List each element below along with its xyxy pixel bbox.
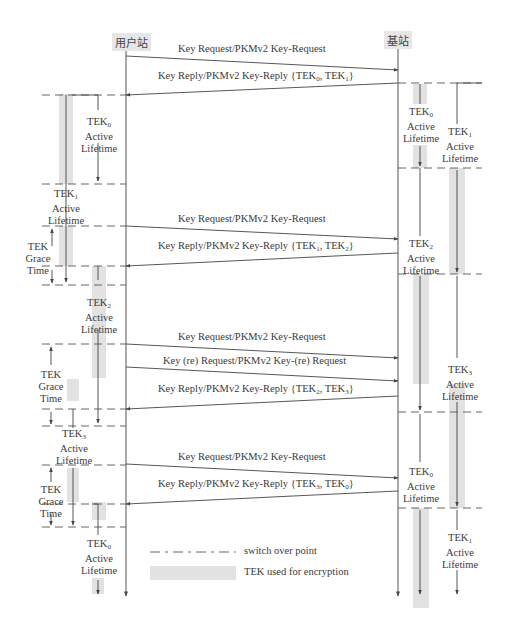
bs-tek0-active-lifetime: TEK0 Active Lifetime xyxy=(401,106,441,145)
bs-tek3-active-lifetime: TEK3 Active Lifetime xyxy=(440,364,480,403)
ss-tek0-active-lifetime-2: TEK0 Active Lifetime xyxy=(80,538,118,577)
legend-switchover-label: switch over point xyxy=(244,545,317,556)
lifelines xyxy=(126,47,398,596)
message-key-reply-4: Key Reply/PKMv2 Key-Reply {TEK3, TEK0} xyxy=(158,478,354,491)
ss-tek3-active-lifetime: TEK3 Active Lifetime xyxy=(54,428,94,467)
bs-tek0-active-lifetime-2: TEK0 Active Lifetime xyxy=(401,466,441,505)
message-key-reply-3: Key Reply/PKMv2 Key-Reply {TEK2, TEK3} xyxy=(158,383,354,396)
legend-encryption-label: TEK used for encryption xyxy=(244,566,349,577)
message-key-re-request: Key (re) Request/PKMv2 Key-(re) Request xyxy=(163,355,346,366)
tek-grace-time-1: TEK Grace Time xyxy=(24,241,52,277)
bs-tek1-active-lifetime-2: TEK1 Active Lifetime xyxy=(440,532,480,571)
message-key-request-1: Key Request/PKMv2 Key-Request xyxy=(178,43,326,54)
actor-base-station: 基站 xyxy=(384,31,412,49)
actor-subscriber-station: 用户站 xyxy=(112,33,151,51)
bs-tek2-active-lifetime: TEK2 Active Lifetime xyxy=(401,238,441,277)
message-key-request-4: Key Request/PKMv2 Key-Request xyxy=(178,451,326,462)
bs-tek1-active-lifetime: TEK1 Active Lifetime xyxy=(440,126,480,165)
ss-tek0-active-lifetime: TEK0 Active Lifetime xyxy=(80,116,118,155)
tek-grace-time-2: TEK Grace Time xyxy=(37,369,65,405)
tek-grace-time-3: TEK Grace Time xyxy=(37,484,65,520)
ss-tek2-active-lifetime: TEK2 Active Lifetime xyxy=(80,297,118,336)
message-key-reply-2: Key Reply/PKMv2 Key-Reply {TEK1, TEK2} xyxy=(158,240,354,253)
ss-tek1-active-lifetime: TEK1 Active Lifetime xyxy=(46,188,86,227)
message-key-request-2: Key Request/PKMv2 Key-Request xyxy=(178,213,326,224)
diagram-canvas xyxy=(0,0,505,624)
message-arrows xyxy=(126,56,398,504)
message-key-reply-1: Key Reply/PKMv2 Key-Reply {TEK0, TEK1} xyxy=(158,70,354,83)
message-key-request-3: Key Request/PKMv2 Key-Request xyxy=(178,331,326,342)
